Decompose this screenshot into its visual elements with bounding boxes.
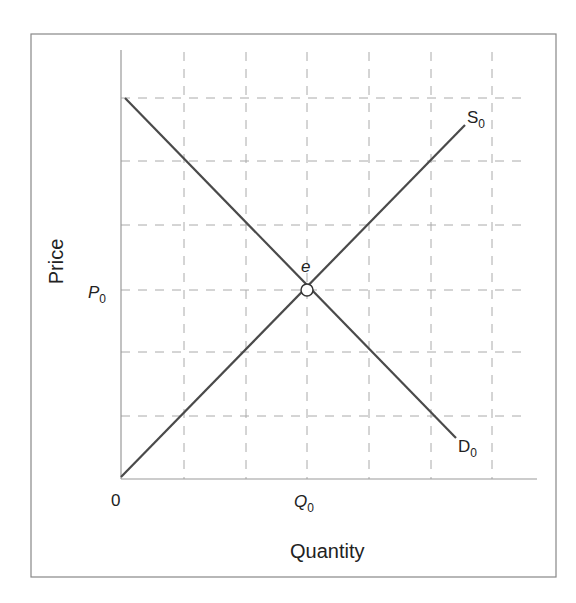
q0-label: Q0	[294, 492, 314, 515]
grid-horizontal	[121, 98, 526, 416]
p0-label: P0	[88, 283, 106, 306]
equilibrium-label: e	[301, 257, 310, 277]
supply-demand-diagram	[0, 0, 576, 603]
y-axis-title: Price	[45, 234, 68, 290]
x-axis-title: Quantity	[290, 540, 364, 563]
supply-label: S0	[467, 108, 485, 131]
supply-curve-s0	[121, 125, 465, 477]
demand-label: D0	[458, 437, 477, 460]
demand-curve-d0	[125, 98, 456, 438]
equilibrium-point	[301, 284, 313, 296]
grid-vertical	[184, 52, 492, 479]
origin-label: 0	[111, 491, 120, 511]
